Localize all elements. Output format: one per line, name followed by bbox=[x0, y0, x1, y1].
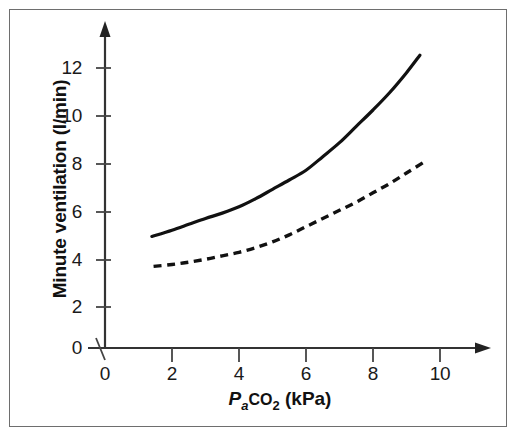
x-tick-label-6: 6 bbox=[286, 363, 326, 385]
x-tick-label-0: 0 bbox=[85, 363, 125, 385]
x-axis-title: PaCO2 (kPa) bbox=[155, 388, 405, 413]
series-line-solid bbox=[152, 55, 420, 236]
x-axis bbox=[88, 343, 491, 354]
x-axis-title-unit: (kPa) bbox=[280, 388, 332, 409]
plot-area: 12 10 8 6 4 2 0 0 2 4 6 8 10 Minute vent… bbox=[0, 0, 519, 443]
x-axis-title-p: P bbox=[229, 388, 242, 409]
series-line-dashed bbox=[154, 163, 424, 267]
x-tick-label-10: 10 bbox=[420, 363, 460, 385]
x-axis-ticks bbox=[172, 348, 440, 362]
y-axis bbox=[100, 21, 111, 348]
x-tick-label-4: 4 bbox=[219, 363, 259, 385]
y-tick-label-0: 0 bbox=[42, 337, 82, 359]
y-axis-title: Minute ventilation (l/min) bbox=[49, 49, 71, 329]
x-tick-label-8: 8 bbox=[353, 363, 393, 385]
x-axis-title-co: CO bbox=[248, 391, 272, 408]
x-tick-label-2: 2 bbox=[152, 363, 192, 385]
y-axis-ticks bbox=[96, 68, 111, 360]
x-axis-title-2: 2 bbox=[272, 398, 279, 413]
